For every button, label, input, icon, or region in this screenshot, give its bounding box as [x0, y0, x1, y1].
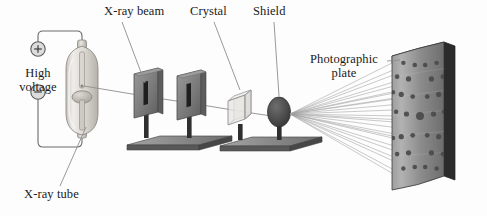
diffraction-spot	[413, 63, 418, 68]
diffraction-spot	[436, 134, 441, 139]
label-high-voltage: High voltage	[12, 66, 64, 94]
diffraction-spot	[436, 92, 441, 97]
shield-body	[268, 97, 291, 127]
apparatus-diagram	[0, 0, 487, 216]
positive-terminal	[31, 42, 45, 56]
leader-shield	[274, 22, 279, 96]
diffraction-spot	[399, 92, 404, 97]
collimator-assembly	[127, 68, 232, 150]
figure-canvas: X-ray beam Crystal Shield Photographic p…	[0, 0, 487, 216]
diffraction-spot	[406, 150, 411, 155]
diffraction-spot	[395, 74, 400, 79]
leader-xray-beam	[122, 22, 145, 83]
collimator-plate-1	[134, 68, 163, 118]
diffraction-spot	[410, 133, 415, 138]
diffraction-spot	[410, 94, 415, 99]
specimen-base	[220, 137, 322, 151]
diffraction-spot	[434, 61, 438, 65]
diffraction-spot	[423, 63, 428, 68]
photographic-plate	[390, 42, 455, 190]
diffraction-spot	[401, 166, 405, 170]
diffraction-spot	[406, 76, 411, 81]
label-crystal: Crystal	[190, 5, 227, 18]
anode-rod	[80, 52, 85, 88]
diffraction-spot	[401, 61, 405, 65]
leader-xray-tube	[60, 127, 86, 186]
plate-edge	[444, 42, 455, 180]
diffraction-spot	[395, 152, 400, 157]
diffraction-spot	[394, 110, 398, 114]
diffraction-spot	[404, 111, 409, 116]
diffraction-spot	[429, 150, 434, 155]
collimator-base	[127, 136, 232, 150]
diffraction-spot	[429, 76, 434, 81]
diffraction-spot	[423, 165, 428, 170]
label-photographic-plate: Photographic plate	[303, 52, 385, 80]
leader-crystal	[214, 22, 240, 90]
label-shield: Shield	[253, 5, 286, 18]
label-xray-tube: X-ray tube	[24, 188, 79, 201]
label-xray-beam: X-ray beam	[104, 5, 164, 18]
diffraction-spot	[399, 134, 404, 139]
diffraction-spot	[425, 94, 430, 99]
crystal-cube	[228, 90, 251, 125]
crystal-post	[238, 124, 243, 140]
diffraction-spot	[434, 166, 438, 170]
xray-tube	[66, 40, 98, 138]
diffraction-spot	[413, 165, 418, 170]
diffraction-spot	[416, 112, 424, 120]
diffraction-spot	[431, 111, 436, 116]
diffraction-spot	[425, 133, 430, 138]
collimator-plate-2	[177, 70, 206, 120]
cathode-stem	[80, 100, 85, 130]
crystal-shield-assembly	[220, 90, 322, 151]
